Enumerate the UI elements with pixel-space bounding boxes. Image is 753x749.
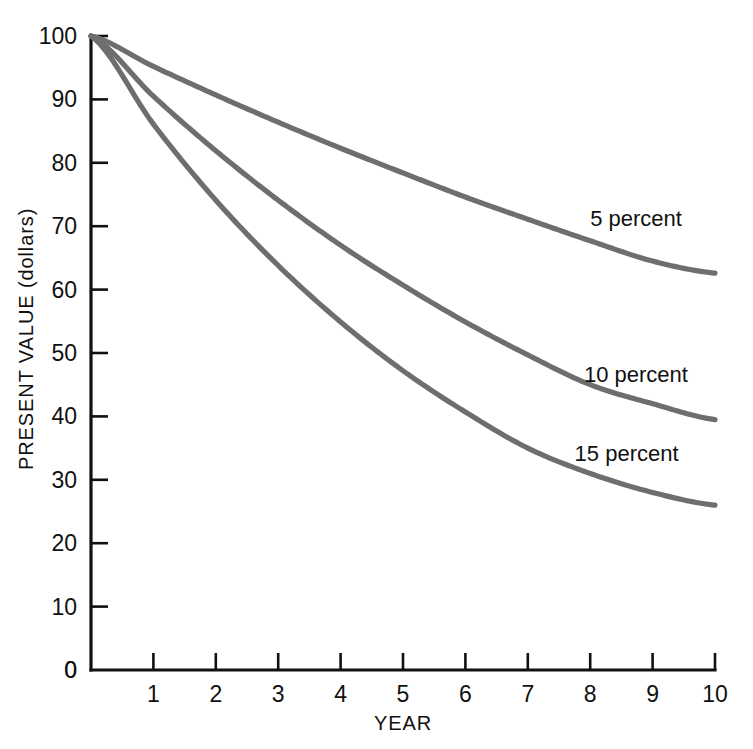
x-tick-label: 8 (584, 681, 597, 707)
x-tick-label: 3 (272, 681, 285, 707)
chart-canvas: 0102030405060708090100 012345678910 5 pe… (0, 0, 753, 749)
y-tick-label: 80 (51, 150, 77, 176)
y-axis-tick-labels: 0102030405060708090100 (39, 23, 77, 683)
x-tick-label: 2 (209, 681, 222, 707)
x-axis-tick-labels: 012345678910 (64, 657, 728, 707)
series-label-15-percent: 15 percent (575, 441, 679, 466)
y-tick-label: 30 (51, 467, 77, 493)
y-tick-label: 10 (51, 594, 77, 620)
y-tick-label: 60 (51, 277, 77, 303)
y-axis-title: PRESENT VALUE (dollars) (15, 208, 37, 470)
y-tick-label: 20 (51, 530, 77, 556)
y-tick-label: 90 (51, 86, 77, 112)
x-tick-label: 5 (397, 681, 410, 707)
x-tick-label: 9 (646, 681, 659, 707)
series-label-10-percent: 10 percent (584, 362, 688, 387)
x-tick-label: 4 (334, 681, 347, 707)
data-curves (91, 36, 715, 505)
series-labels: 5 percent10 percent15 percent (575, 206, 688, 466)
y-tick-label: 70 (51, 213, 77, 239)
x-tick-label: 1 (147, 681, 160, 707)
y-axis-ticks (91, 36, 108, 607)
x-axis-title: YEAR (374, 712, 432, 734)
present-value-chart: 0102030405060708090100 012345678910 5 pe… (0, 0, 753, 749)
x-axis-ticks (153, 653, 715, 670)
curve-5-percent (91, 36, 715, 273)
y-tick-label: 100 (39, 23, 77, 49)
curve-15-percent (91, 36, 715, 505)
x-tick-label: 6 (459, 681, 472, 707)
x-tick-label: 7 (521, 681, 534, 707)
y-tick-label: 50 (51, 340, 77, 366)
x-tick-label: 10 (702, 681, 728, 707)
series-label-5-percent: 5 percent (590, 206, 682, 231)
x-tick-label: 0 (64, 657, 77, 683)
y-tick-label: 40 (51, 403, 77, 429)
